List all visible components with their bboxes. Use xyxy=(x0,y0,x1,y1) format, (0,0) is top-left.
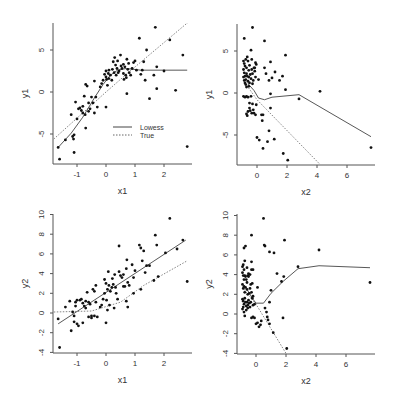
data-point xyxy=(96,106,99,109)
data-point xyxy=(127,62,130,65)
data-point xyxy=(142,60,145,63)
y-tick-label: 10 xyxy=(221,211,230,220)
data-point xyxy=(84,127,87,130)
data-point xyxy=(252,268,255,271)
data-point xyxy=(125,267,128,270)
data-point xyxy=(253,317,256,320)
data-point xyxy=(282,152,285,155)
data-point xyxy=(243,62,246,65)
data-point xyxy=(141,259,144,262)
data-point xyxy=(92,102,95,105)
data-point xyxy=(265,311,268,314)
data-point xyxy=(80,109,83,112)
data-point xyxy=(115,292,118,295)
data-point xyxy=(253,66,256,69)
data-point xyxy=(109,290,112,293)
true-curve xyxy=(245,83,320,164)
panel-y1-vs-x2: 0246-505x2y1 xyxy=(204,24,375,197)
data-point xyxy=(247,299,250,302)
x-axis-label: x1 xyxy=(118,186,128,196)
data-point xyxy=(109,74,112,77)
data-point xyxy=(90,317,93,320)
data-point xyxy=(174,89,177,92)
x-tick-label: 6 xyxy=(344,360,349,369)
data-point xyxy=(71,311,74,314)
data-point xyxy=(77,324,80,327)
data-point xyxy=(131,263,134,266)
y-axis-label: y1 xyxy=(20,89,30,99)
data-point xyxy=(90,96,93,99)
data-point xyxy=(73,133,76,136)
data-point xyxy=(251,282,254,285)
data-point xyxy=(122,273,125,276)
figure: -1012-505x1y1 0246-505x2y1 -1012-4-20246… xyxy=(0,0,396,407)
y-axis-label: y2 xyxy=(204,279,214,289)
data-point xyxy=(105,321,108,324)
data-point xyxy=(181,54,184,57)
data-point xyxy=(134,60,137,63)
data-point xyxy=(244,83,247,86)
data-point xyxy=(100,82,103,85)
data-point xyxy=(113,71,116,74)
data-point xyxy=(272,331,275,334)
data-point xyxy=(259,323,262,326)
data-point xyxy=(93,112,96,115)
y-tick-label: 8 xyxy=(37,231,46,236)
data-point xyxy=(106,309,109,312)
legend: Lowess True xyxy=(113,124,164,139)
y-tick-label: 4 xyxy=(37,271,46,276)
data-point xyxy=(268,251,271,254)
data-point xyxy=(107,270,110,273)
data-point xyxy=(154,26,157,29)
data-point xyxy=(135,69,138,72)
data-point xyxy=(125,92,128,95)
data-point xyxy=(176,248,179,251)
data-point xyxy=(243,315,246,318)
data-point xyxy=(72,138,75,141)
data-point xyxy=(144,79,147,82)
data-point xyxy=(106,84,109,87)
data-point xyxy=(125,76,128,79)
data-point xyxy=(108,284,111,287)
data-point xyxy=(250,291,253,294)
data-point xyxy=(246,114,249,117)
data-point xyxy=(81,112,84,115)
data-point xyxy=(270,289,273,292)
data-point xyxy=(132,292,135,295)
y-axis-label: y2 xyxy=(20,279,30,289)
data-point xyxy=(281,75,284,78)
data-point xyxy=(246,55,249,58)
data-point xyxy=(248,82,251,85)
data-point xyxy=(285,347,288,350)
x-tick-label: 4 xyxy=(314,360,319,369)
data-point xyxy=(247,85,250,88)
data-point xyxy=(120,65,123,68)
data-point xyxy=(113,56,116,59)
data-point xyxy=(100,304,103,307)
scatterplot-matrix: -1012-505x1y1 0246-505x2y1 -1012-4-20246… xyxy=(0,0,396,407)
data-point xyxy=(245,66,248,69)
data-point xyxy=(93,290,96,293)
data-point xyxy=(265,72,268,75)
data-point xyxy=(87,102,90,105)
data-point xyxy=(145,264,148,267)
data-point xyxy=(243,311,246,314)
lowess-curve xyxy=(248,84,371,137)
data-point xyxy=(105,282,108,285)
data-point xyxy=(268,79,271,82)
data-point xyxy=(64,138,67,141)
data-point xyxy=(155,244,158,247)
data-point xyxy=(261,119,264,122)
x-axis-label: x1 xyxy=(118,375,128,385)
data-point xyxy=(255,103,258,106)
data-point xyxy=(123,78,126,81)
data-point xyxy=(247,96,250,99)
data-point xyxy=(243,268,246,271)
data-point xyxy=(152,279,155,282)
data-point xyxy=(263,244,266,247)
data-point xyxy=(249,273,252,276)
lowess-curve xyxy=(247,266,370,303)
data-point xyxy=(164,252,167,255)
data-point xyxy=(111,68,114,71)
data-point xyxy=(102,298,105,301)
